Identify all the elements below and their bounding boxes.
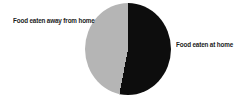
slice-label-at-home: Food eaten at home <box>176 41 233 49</box>
pie-chart: Food eaten away from home Food eaten at … <box>0 0 235 99</box>
pie <box>85 3 171 95</box>
slice-label-away-from-home: Food eaten away from home <box>13 17 95 25</box>
